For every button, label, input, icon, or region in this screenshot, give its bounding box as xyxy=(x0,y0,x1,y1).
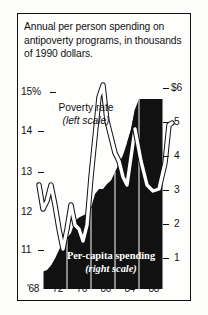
left-axis-tick-14: 14 xyxy=(21,125,32,136)
right-tick-mark-3 xyxy=(163,190,169,191)
left-tick-mark-11 xyxy=(38,250,44,251)
left-tick-mark-15 xyxy=(50,92,56,93)
x-axis-tick-84: '84 xyxy=(123,283,135,294)
poverty-rate-annotation-scale: (left scale) xyxy=(47,114,125,127)
right-tick-mark-5 xyxy=(163,122,169,123)
x-axis-tick-88: '88 xyxy=(147,283,159,294)
x-axis-tick-72: '72 xyxy=(51,283,63,294)
right-axis-tick-5: 5 xyxy=(174,116,179,127)
spending-annotation: Per-capita spending (right scale) xyxy=(56,249,166,275)
figure: Annual per person spending on antipovert… xyxy=(0,0,208,315)
right-tick-mark-6 xyxy=(163,88,169,89)
left-axis-tick-12: 12 xyxy=(21,206,32,217)
x-axis-tick-80: '80 xyxy=(99,283,111,294)
poverty-rate-annotation-label: Poverty rate xyxy=(47,101,125,114)
right-axis-tick-6: $6 xyxy=(171,82,182,93)
left-axis-tick-15: 15% xyxy=(21,86,41,97)
right-tick-mark-2 xyxy=(163,224,169,225)
right-axis-tick-1: 1 xyxy=(174,252,179,263)
left-axis-tick-11: 11 xyxy=(21,244,31,255)
poverty-rate-annotation: Poverty rate (left scale) xyxy=(47,101,125,127)
right-axis-tick-2: 2 xyxy=(174,218,179,229)
right-tick-mark-4 xyxy=(163,156,169,157)
x-axis-tick-68: '68 xyxy=(27,283,39,294)
left-tick-mark-14 xyxy=(38,131,44,132)
left-tick-mark-13 xyxy=(38,172,44,173)
spending-annotation-scale: (right scale) xyxy=(56,262,166,275)
spending-annotation-label: Per-capita spending xyxy=(56,249,166,262)
x-axis-tick-76: '76 xyxy=(75,283,87,294)
right-axis-tick-4: 4 xyxy=(174,150,179,161)
left-axis-tick-13: 13 xyxy=(21,166,32,177)
right-axis-tick-3: 3 xyxy=(174,184,179,195)
